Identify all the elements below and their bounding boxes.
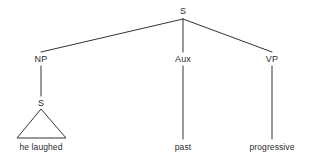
edge-root-to-np <box>41 19 183 52</box>
node-vp: VP <box>266 55 278 64</box>
terminal-he-laughed: he laughed <box>19 143 62 152</box>
tree-edges-canvas <box>0 0 313 164</box>
node-np: NP <box>35 55 48 64</box>
node-root-s: S <box>180 7 186 16</box>
node-aux: Aux <box>175 55 191 64</box>
terminal-progressive: progressive <box>249 143 294 152</box>
node-embedded-s: S <box>38 99 44 108</box>
syntax-tree-figure: S NP Aux VP S he laughed past progressiv… <box>0 0 313 164</box>
terminal-past: past <box>175 143 191 152</box>
phrase-triangle <box>17 109 66 138</box>
edge-root-to-vp <box>183 19 272 52</box>
